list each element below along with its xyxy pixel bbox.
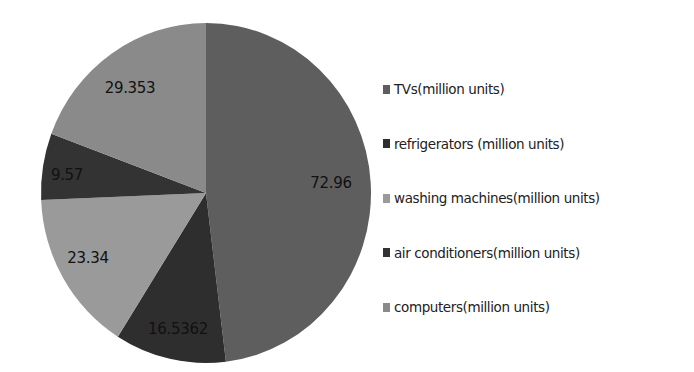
legend-item-computers: computers(million units) (383, 280, 600, 335)
legend-item-tvs: TVs(million units) (383, 62, 600, 117)
legend-label: washing machines(million units) (394, 190, 600, 206)
legend-swatch-icon (383, 139, 390, 148)
data-label-refrigerators: 16.5362 (148, 320, 208, 338)
legend-swatch-icon (383, 194, 390, 203)
legend-swatch-icon (383, 248, 390, 257)
legend-label: air conditioners(million units) (394, 245, 580, 261)
data-label-tvs: 72.96 (310, 174, 351, 192)
data-label-computers: 29.353 (105, 79, 156, 97)
legend-label: refrigerators (million units) (394, 136, 564, 152)
legend-label: computers(million units) (394, 299, 550, 315)
legend-item-washing-machines: washing machines(million units) (383, 171, 600, 226)
data-label-air-conditioners: 9.57 (51, 166, 83, 184)
legend-item-refrigerators: refrigerators (million units) (383, 117, 600, 172)
chart-legend: TVs(million units) refrigerators (millio… (383, 62, 600, 335)
pie-slice-tvs (206, 23, 371, 362)
legend-swatch-icon (383, 303, 390, 312)
legend-swatch-icon (383, 85, 390, 94)
legend-label: TVs(million units) (394, 81, 504, 97)
legend-item-air-conditioners: air conditioners(million units) (383, 226, 600, 281)
data-label-washing-machines: 23.34 (67, 249, 108, 267)
